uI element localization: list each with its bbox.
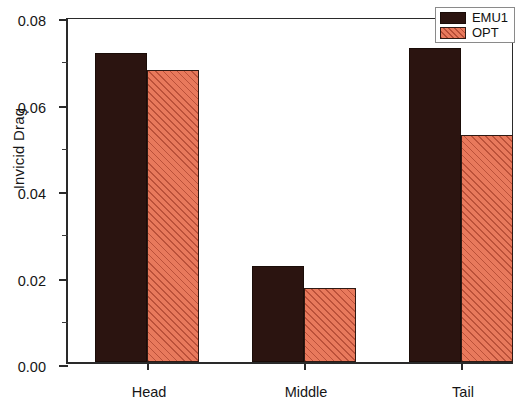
y-tick-label: 0.02: [18, 273, 46, 289]
bar-head-emu1: [95, 53, 147, 362]
y-minor-tick: [62, 62, 68, 63]
y-tick-label: 0.04: [18, 186, 46, 202]
x-tick-middle: Middle: [304, 362, 306, 370]
legend-item-emu1: EMU1: [440, 11, 508, 24]
y-tick-label: 0.06: [18, 100, 46, 116]
bar-tail-opt: [461, 135, 513, 362]
legend-swatch-emu1: [440, 12, 466, 24]
legend-label-opt: OPT: [472, 26, 499, 39]
y-tick-0.04: 0.04: [59, 192, 68, 194]
y-tick-0.00: 0.00: [59, 365, 68, 367]
y-tick-label: 0.08: [18, 13, 46, 29]
x-tick-tail: Tail: [461, 362, 463, 370]
bar-chart: Invicid Drag 0.000.020.040.060.08 HeadMi…: [0, 0, 523, 398]
bar-head-opt: [147, 70, 199, 362]
y-minor-tick: [62, 149, 68, 150]
x-tick-label: Tail: [452, 384, 474, 398]
legend-label-emu1: EMU1: [472, 11, 508, 24]
chart-legend: EMU1 OPT: [435, 7, 515, 43]
legend-swatch-opt: [440, 27, 466, 39]
y-minor-tick: [62, 235, 68, 236]
x-tick-label: Middle: [285, 384, 328, 398]
y-tick-0.02: 0.02: [59, 279, 68, 281]
x-tick-head: Head: [147, 362, 149, 370]
y-tick-0.08: 0.08: [59, 19, 68, 21]
bar-middle-emu1: [252, 266, 304, 362]
y-tick-label: 0.00: [18, 359, 46, 375]
y-minor-tick: [62, 322, 68, 323]
legend-item-opt: OPT: [440, 26, 508, 39]
y-tick-0.06: 0.06: [59, 106, 68, 108]
plot-area: 0.000.020.040.060.08 HeadMiddleTail: [66, 18, 513, 364]
bar-middle-opt: [304, 288, 356, 362]
bar-tail-emu1: [409, 48, 461, 362]
x-tick-label: Head: [132, 384, 167, 398]
